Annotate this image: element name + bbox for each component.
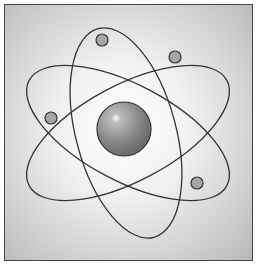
electron xyxy=(169,51,181,63)
atom-diagram xyxy=(0,0,266,267)
electron xyxy=(45,112,57,124)
electron xyxy=(96,34,108,46)
electron xyxy=(191,177,203,189)
nucleus xyxy=(97,102,151,156)
